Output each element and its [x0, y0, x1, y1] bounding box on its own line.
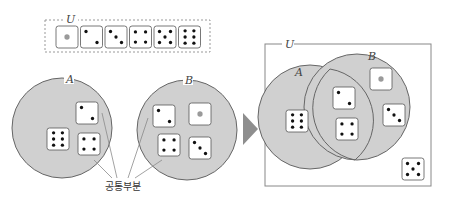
die-face-5 — [154, 26, 176, 48]
die-face-2 — [153, 105, 175, 127]
die-face-6 — [286, 110, 308, 132]
set-b-label: B — [184, 74, 193, 87]
die-face-2 — [76, 102, 98, 124]
universe-label-top: U — [66, 13, 76, 26]
die-face-4 — [130, 26, 152, 48]
intersection-callout: 공통부분 — [105, 181, 141, 192]
set-a-label-right: A — [294, 66, 303, 79]
die-face-1 — [189, 103, 211, 125]
die-face-1 — [56, 26, 78, 48]
top-dice-row — [56, 26, 201, 48]
die-face-1 — [370, 68, 392, 90]
set-b-label-right: B — [367, 50, 376, 63]
die-face-4 — [336, 118, 358, 140]
die-face-4 — [78, 133, 100, 155]
die-face-2 — [333, 87, 355, 109]
die-face-6 — [179, 26, 201, 48]
die-face-2 — [81, 26, 103, 48]
die-face-5 — [402, 158, 424, 180]
set-b-circle — [137, 80, 237, 180]
die-face-3 — [189, 137, 211, 159]
die-face-3 — [105, 26, 127, 48]
die-face-6 — [47, 128, 69, 150]
arrow-right-icon — [243, 113, 258, 145]
die-face-4 — [158, 134, 180, 156]
universe-label-right: U — [285, 38, 295, 51]
set-a-label: A — [65, 73, 74, 86]
die-face-3 — [383, 104, 405, 126]
venn-diagram: U A B 공통부분 U A B — [0, 0, 455, 204]
